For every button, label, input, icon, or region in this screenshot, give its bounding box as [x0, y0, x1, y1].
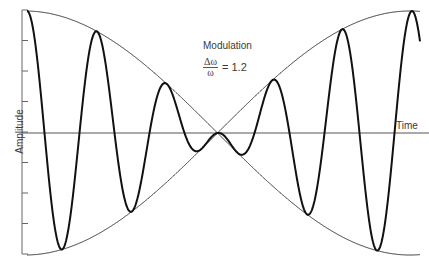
ratio-denominator: ω: [203, 68, 218, 78]
x-axis-label: Time: [396, 120, 418, 131]
chart-title: Modulation: [203, 40, 252, 51]
ratio-value: = 1.2: [222, 61, 247, 73]
modulation-ratio: Δω ω: [203, 57, 218, 78]
y-axis-label: Amplitude: [14, 102, 25, 162]
